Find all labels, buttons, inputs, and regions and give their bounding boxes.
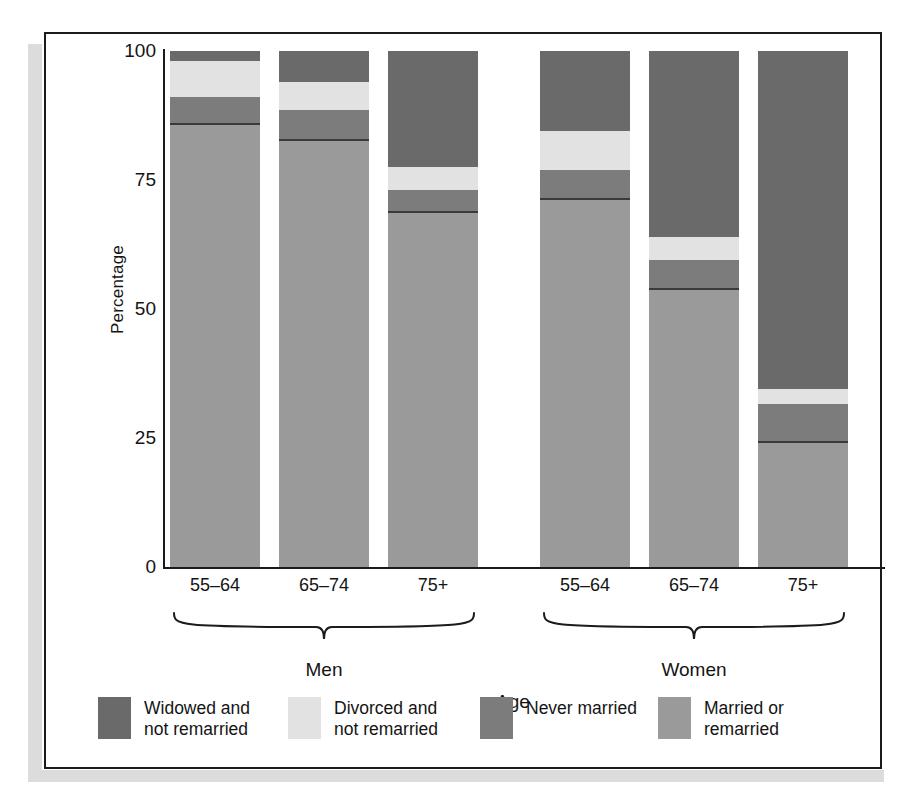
bar-segment-1 [279,82,369,110]
x-tick-label: 55–64 [190,575,240,596]
bar-segment-1 [388,167,478,190]
bar-segment-2 [649,260,739,288]
bar-segment-1 [170,61,260,97]
bar-women-5564[interactable] [540,51,630,567]
page-shadow-bottom [28,770,884,782]
bar-segment-3 [279,139,369,567]
legend-item[interactable]: Never married [480,697,658,739]
y-tick-100: 100 [124,40,156,62]
bar-segment-2 [758,404,848,440]
group-label-women: Women [661,659,726,681]
x-tick-label: 65–74 [299,575,349,596]
y-tick-25: 25 [135,427,156,449]
bar-segment-1 [649,237,739,260]
bar-segment-2 [279,110,369,138]
group-brace-women [542,611,846,641]
chart-page: Percentage 100755025055–6465–7475+55–646… [0,0,914,811]
bar-segment-0 [279,51,369,82]
bar-segment-2 [170,97,260,123]
legend-item[interactable]: Married or remarried [658,697,798,740]
legend-label: Divorced and not remarried [334,697,438,740]
bar-segment-2 [388,190,478,211]
bar-women-75+[interactable] [758,51,848,567]
bar-men-75+[interactable] [388,51,478,567]
bar-segment-0 [388,51,478,167]
legend-swatch [658,697,691,739]
chart-legend: Widowed and not remarriedDivorced and no… [98,697,798,740]
page-shadow-left [28,44,42,779]
plot-area: 100755025055–6465–7475+55–6465–7475+MenW… [166,51,906,567]
bar-men-5564[interactable] [170,51,260,567]
x-axis-line [163,567,885,569]
bar-segment-1 [758,389,848,404]
bar-segment-2 [540,170,630,198]
group-label-men: Men [306,659,343,681]
y-tick-50: 50 [135,298,156,320]
y-axis-line [163,49,165,569]
legend-label: Widowed and not remarried [144,697,250,740]
legend-swatch [480,697,513,739]
bar-segment-3 [540,198,630,567]
legend-swatch [98,697,131,739]
chart-frame: Percentage 100755025055–6465–7475+55–646… [44,32,882,769]
y-tick-75: 75 [135,169,156,191]
bar-segment-1 [540,131,630,170]
legend-swatch [288,697,321,739]
bar-segment-0 [540,51,630,131]
bar-segment-0 [649,51,739,237]
x-tick-label: 65–74 [669,575,719,596]
legend-label: Married or remarried [704,697,784,740]
legend-item[interactable]: Divorced and not remarried [288,697,480,740]
bar-segment-0 [758,51,848,389]
bar-segment-3 [388,211,478,567]
x-tick-label: 55–64 [560,575,610,596]
group-brace-men [172,611,476,641]
y-axis-label: Percentage [108,245,128,334]
legend-label: Never married [526,697,637,719]
x-tick-label: 75+ [418,575,449,596]
bar-men-6574[interactable] [279,51,369,567]
bar-segment-3 [758,441,848,567]
bar-women-6574[interactable] [649,51,739,567]
bar-segment-3 [170,123,260,567]
y-tick-0: 0 [145,556,156,578]
bar-segment-0 [170,51,260,61]
legend-item[interactable]: Widowed and not remarried [98,697,288,740]
x-tick-label: 75+ [788,575,819,596]
bar-segment-3 [649,288,739,567]
